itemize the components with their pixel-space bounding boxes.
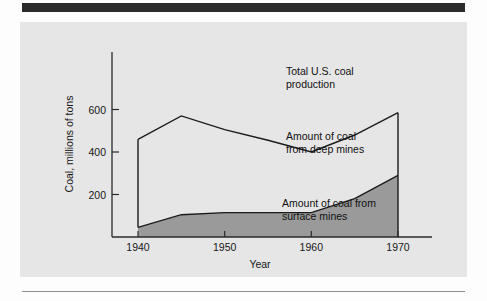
x-tick-label-1940: 1940 [126,241,150,253]
chart-panel: 600 400 200 Coal, millions of tons 1940 … [20,22,467,277]
top-divider-rule [22,3,465,12]
annotation-total-production-line2: production [286,78,335,90]
y-tick-label-600: 600 [88,104,106,116]
y-axis-title: Coal, millions of tons [63,96,75,193]
x-axis-title: Year [249,258,271,270]
annotation-deep-mines-line1: Amount of coal [286,130,356,142]
annotation-deep-mines-line2: from deep mines [286,143,364,155]
figure-root: 600 400 200 Coal, millions of tons 1940 … [0,0,487,301]
coal-production-area-chart: 600 400 200 Coal, millions of tons 1940 … [20,22,467,277]
x-tick-label-1970: 1970 [386,241,410,253]
annotation-surface-mines-line1: Amount of coal from [282,197,376,209]
annotation-surface-mines-line2: surface mines [282,210,347,222]
y-tick-label-400: 400 [88,146,106,158]
y-tick-label-200: 200 [88,189,106,201]
x-tick-label-1960: 1960 [300,241,324,253]
bottom-divider-rule [22,291,465,292]
x-tick-label-1950: 1950 [213,241,237,253]
annotation-total-production-line1: Total U.S. coal [286,65,354,77]
